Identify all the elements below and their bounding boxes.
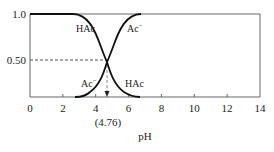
label-hac-top: HAc xyxy=(76,23,95,34)
label-hac-bottom: HAc xyxy=(125,78,144,89)
label-ac-top: Ac− xyxy=(127,22,143,34)
speciation-chart: 1.0 0.50 0 2 4 6 8 10 12 14 (4.76) pH HA… xyxy=(0,0,274,152)
x-tick-label: 2 xyxy=(60,102,66,114)
x-tick-label: 0 xyxy=(27,102,33,114)
y-tick-label-1: 1.0 xyxy=(12,8,26,20)
pka-arrow-icon xyxy=(105,91,110,97)
x-tick-label: 12 xyxy=(222,102,233,114)
x-tick-label: 6 xyxy=(126,102,132,114)
pka-label: (4.76) xyxy=(95,116,122,129)
x-tick-labels: 0 2 4 6 8 10 12 14 xyxy=(27,102,266,114)
x-axis-title: pH xyxy=(138,130,152,142)
x-tick-label: 14 xyxy=(255,102,267,114)
x-tick-label: 8 xyxy=(159,102,165,114)
x-tick-label: 4 xyxy=(93,102,99,114)
x-tick-label: 10 xyxy=(189,102,201,114)
y-tick-label-050: 0.50 xyxy=(7,54,27,66)
